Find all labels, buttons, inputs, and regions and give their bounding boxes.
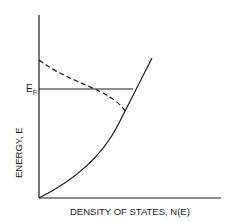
x-axis-label: DENSITY OF STATES, N(E): [70, 206, 190, 217]
occupied-states-curve: [39, 60, 126, 112]
y-axis-label: ENERGY, E: [13, 127, 24, 178]
density-of-states-curve: [39, 58, 152, 198]
dos-diagram: ENERGY, E EF DENSITY OF STATES, N(E): [0, 0, 229, 222]
fermi-label: EF: [26, 83, 37, 96]
